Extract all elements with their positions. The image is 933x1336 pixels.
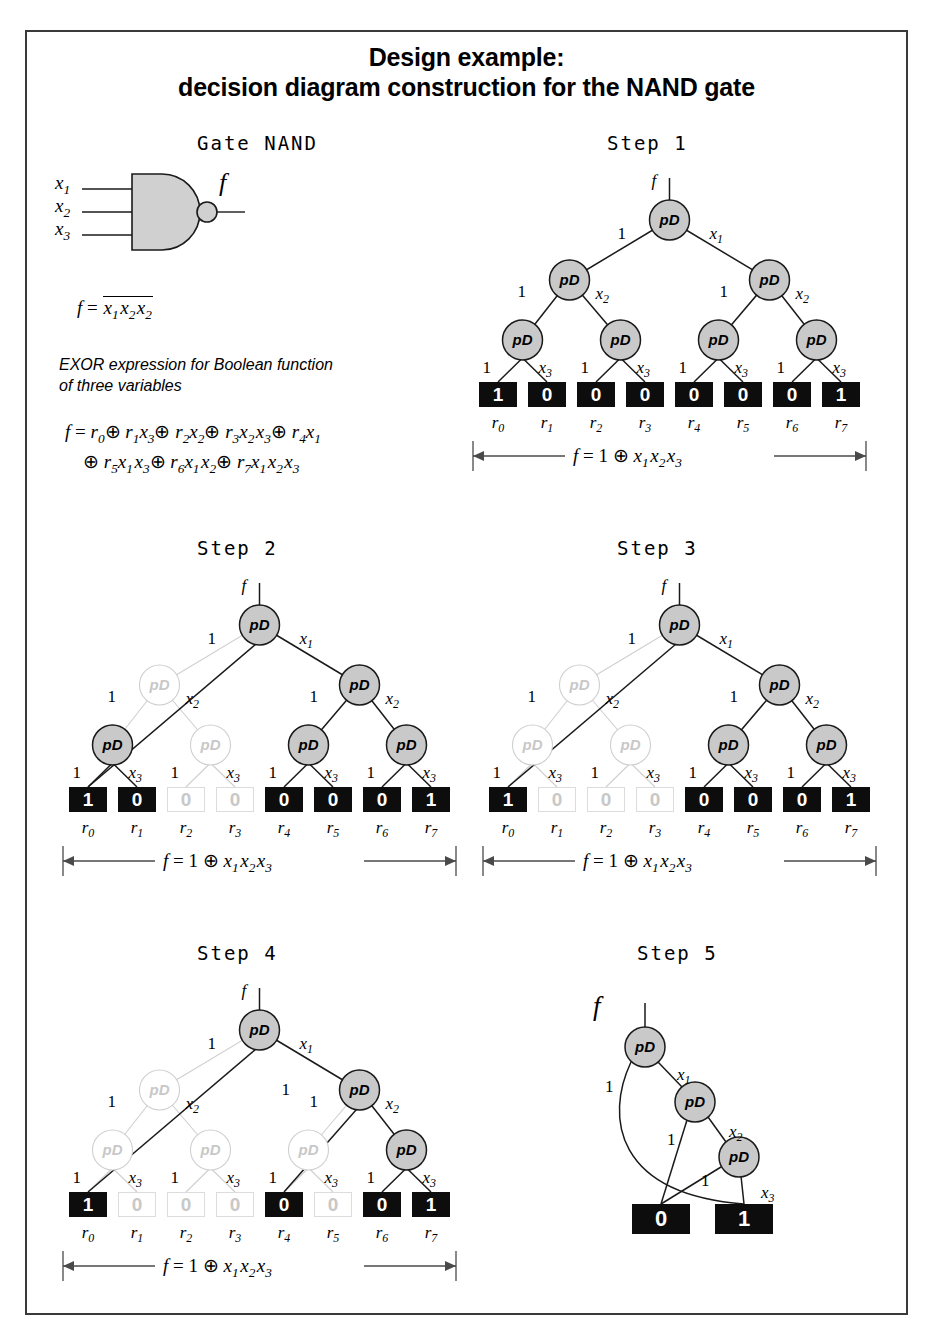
node-pd[interactable]: pD [601, 320, 641, 360]
ghost-node-pd[interactable]: pD [140, 665, 180, 705]
node-pd[interactable]: pD [93, 725, 133, 765]
ghost-node-pd[interactable]: pD [191, 725, 231, 765]
terminal-node-ghost[interactable]: 0 [118, 1192, 156, 1217]
edge-label-l1-left: 1 [108, 1092, 117, 1112]
node-label: pD [806, 331, 827, 348]
terminal-node[interactable]: 1 [69, 1192, 107, 1217]
node-label: pD [396, 1141, 417, 1158]
terminal-index-label: r2 [577, 413, 615, 436]
edge-label-root-right: x1 [300, 629, 314, 652]
node-label: pD [249, 1021, 270, 1038]
node-pd[interactable]: pD [340, 1070, 380, 1110]
terminal-node[interactable]: 0 [265, 787, 303, 812]
terminal-node-ghost[interactable]: 0 [167, 1192, 205, 1217]
terminal-node[interactable]: 0 [685, 787, 723, 812]
ghost-node-pd[interactable]: pD [289, 1130, 329, 1170]
terminal-node[interactable]: 0 [734, 787, 772, 812]
edge-label-l3-2-right: x3 [735, 358, 749, 381]
node-pd[interactable]: pD [387, 1130, 427, 1170]
terminal-node-ghost[interactable]: 0 [216, 787, 254, 812]
node-label: pD [669, 616, 690, 633]
exor-description-line-2: of three variables [59, 375, 389, 396]
node-pd[interactable]: pD [750, 260, 790, 300]
gate-caption: Gate NAND [197, 132, 318, 154]
terminal-node-ghost[interactable]: 0 [216, 1192, 254, 1217]
terminal-index-label: r3 [216, 818, 254, 841]
terminal-node[interactable]: 0 [118, 787, 156, 812]
step-panel-step-3: Step 3fpDpDpDpDpDpDpD1x11x21x21x31x31x31… [467, 537, 887, 867]
ghost-node-pd[interactable]: pD [560, 665, 600, 705]
ghost-node-pd[interactable]: pD [140, 1070, 180, 1110]
edge-label-root-right: x1 [710, 224, 724, 247]
terminal-index-label: r5 [314, 818, 352, 841]
terminal-node[interactable]: 0 [626, 382, 664, 407]
terminal-node[interactable]: 0 [528, 382, 566, 407]
terminal-node[interactable]: 1 [489, 787, 527, 812]
terminal-index-label: r0 [479, 413, 517, 436]
terminal-node[interactable]: 0 [265, 1192, 303, 1217]
edge-label-l3-0-right: x3 [549, 763, 563, 786]
edge-label-l3-2-right: x3 [325, 1168, 339, 1191]
node-label: pD [634, 1038, 655, 1055]
terminal-node-ghost[interactable]: 0 [587, 787, 625, 812]
terminal-node[interactable]: 1 [479, 382, 517, 407]
node-pd[interactable]: pD [797, 320, 837, 360]
node-pd[interactable]: pD [709, 725, 749, 765]
edge-label-r1-left: 1 [310, 1092, 319, 1112]
node-pd[interactable]: pD [807, 725, 847, 765]
node-label: pD [249, 616, 270, 633]
ghost-node-pd[interactable]: pD [93, 1130, 133, 1170]
node-label: pD [708, 331, 729, 348]
step-panel-step-2: Step 2fpDpDpDpDpDpDpD1x11x21x21x31x31x31… [47, 537, 467, 867]
node-pd[interactable]: pD [240, 605, 280, 645]
node-pd[interactable]: pD [650, 200, 690, 240]
node-pd[interactable]: pD [760, 665, 800, 705]
terminal-node-ghost[interactable]: 0 [167, 787, 205, 812]
ghost-node-pd[interactable]: pD [191, 1130, 231, 1170]
terminal-node[interactable]: 1 [412, 1192, 450, 1217]
node-label: pD [620, 736, 641, 753]
edge-label-root-right: x1 [720, 629, 734, 652]
step-panel-step-4: Step 4fpDpDpDpDpDpDpD1x11x21x21x31x31x31… [47, 942, 467, 1272]
ghost-node-pd[interactable]: pD [513, 725, 553, 765]
node-label: pD [298, 736, 319, 753]
node-label: pD [102, 736, 123, 753]
terminal-node-ghost[interactable]: 0 [314, 1192, 352, 1217]
node-pd[interactable]: pD [240, 1010, 280, 1050]
terminal-node[interactable]: 0 [773, 382, 811, 407]
node-pd[interactable]: pD [660, 605, 700, 645]
edge-label-l1-right: x2 [186, 689, 200, 712]
edge-label-extra: 1 [282, 1080, 291, 1100]
node-pd[interactable]: pD [550, 260, 590, 300]
terminal-node[interactable]: 1 [832, 787, 870, 812]
terminal-node[interactable]: 0 [675, 382, 713, 407]
node-pd[interactable]: pD [625, 1027, 665, 1067]
terminal-node[interactable]: 1 [412, 787, 450, 812]
terminal-node[interactable]: 1 [822, 382, 860, 407]
terminal-index-label: r5 [734, 818, 772, 841]
edge-label-l3-3-left: 1 [367, 763, 376, 783]
edge-label-l3-0-left: 1 [73, 1168, 82, 1188]
terminal-node[interactable]: 0 [314, 787, 352, 812]
node-pd[interactable]: pD [289, 725, 329, 765]
terminal-node[interactable]: 0 [363, 1192, 401, 1217]
terminal-node[interactable]: 1 [69, 787, 107, 812]
node-pd[interactable]: pD [699, 320, 739, 360]
terminal-node-ghost[interactable]: 0 [636, 787, 674, 812]
terminal-node[interactable]: 0 [363, 787, 401, 812]
terminal-node[interactable]: 0 [724, 382, 762, 407]
terminal-node[interactable]: 1 [715, 1204, 773, 1234]
terminal-node[interactable]: 0 [632, 1204, 690, 1234]
node-pd[interactable]: pD [387, 725, 427, 765]
terminal-index-label: r1 [538, 818, 576, 841]
node-pd[interactable]: pD [340, 665, 380, 705]
terminal-node[interactable]: 0 [577, 382, 615, 407]
ghost-node-pd[interactable]: pD [611, 725, 651, 765]
edge-label-mid-right: x2 [729, 1122, 743, 1145]
terminal-node[interactable]: 0 [783, 787, 821, 812]
node-label: pD [149, 676, 170, 693]
svg-text:f: f [652, 171, 659, 190]
node-pd[interactable]: pD [503, 320, 543, 360]
nand-gate-drawing [37, 154, 397, 294]
terminal-node-ghost[interactable]: 0 [538, 787, 576, 812]
